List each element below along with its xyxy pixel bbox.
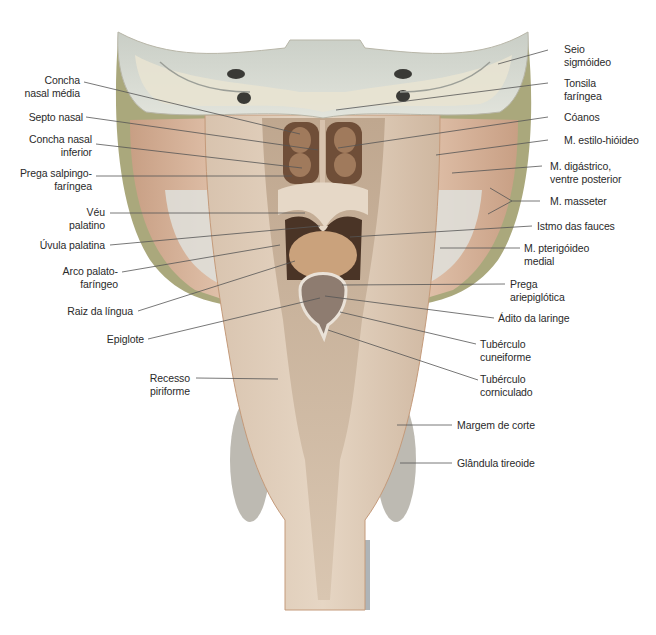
- tongue-root: [289, 231, 357, 279]
- label-epiglote: Epiglote: [107, 333, 144, 346]
- label-margem-de-corte: Margem de corte: [457, 419, 535, 432]
- label-m-digastrico: M. digástrico, ventre posterior: [550, 160, 621, 186]
- label-arco-palatofaringeo: Arco palato- faríngeo: [63, 265, 118, 291]
- label-seio-sigmoideo: Seio sigmóideo: [564, 43, 611, 69]
- label-adito-da-laringe: Ádito da laringe: [498, 312, 569, 325]
- label-septo-nasal: Septo nasal: [29, 111, 83, 124]
- label-glandula-tireoide: Glândula tireoide: [457, 457, 535, 470]
- label-veu-palatino: Véu palatino: [69, 206, 105, 232]
- label-tuberculo-corniculado: Tubérculo corniculado: [480, 373, 533, 399]
- label-coanos: Cóanos: [564, 111, 600, 124]
- label-tonsila-faringea: Tonsila faríngea: [564, 77, 602, 103]
- label-m-pterigoideo-medial: M. pterigóideo medial: [524, 242, 589, 268]
- label-tuberculo-cuneiforme: Tubérculo cuneiforme: [480, 338, 531, 364]
- label-prega-ariepiglotica: Prega ariepiglótica: [510, 278, 565, 304]
- label-uvula-palatina: Úvula palatina: [40, 239, 105, 252]
- anatomy-figure: Concha nasal média Septo nasal Concha na…: [0, 0, 656, 635]
- label-concha-nasal-inferior: Concha nasal inferior: [29, 133, 92, 159]
- label-m-masseter: M. masseter: [550, 195, 607, 208]
- label-concha-nasal-media: Concha nasal média: [24, 74, 80, 100]
- label-recesso-piriforme: Recesso piriforme: [150, 372, 190, 398]
- label-istmo-das-fauces: Istmo das fauces: [537, 220, 615, 233]
- label-m-estilo-hioideo: M. estilo-hióideo: [564, 134, 639, 147]
- label-raiz-da-lingua: Raiz da língua: [67, 305, 133, 318]
- label-prega-salpingofaringea: Prega salpingo- faríngea: [20, 167, 92, 193]
